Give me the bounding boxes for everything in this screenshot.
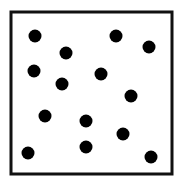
dot	[117, 128, 130, 141]
dot	[80, 115, 93, 128]
dot	[56, 78, 69, 91]
dot	[22, 147, 35, 160]
dot	[125, 90, 138, 103]
dots-group	[22, 30, 158, 164]
dot	[80, 141, 93, 154]
dot	[39, 110, 52, 123]
dot	[60, 47, 73, 60]
dot	[143, 41, 156, 54]
dot	[110, 30, 123, 43]
dot	[145, 151, 158, 164]
dot-diagram	[0, 0, 185, 188]
dot	[29, 30, 42, 43]
dot	[95, 68, 108, 81]
dot	[28, 65, 41, 78]
